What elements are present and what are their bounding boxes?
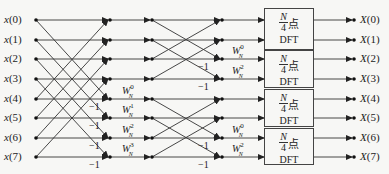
output-node [352, 38, 356, 42]
twiddle-factor: W1N [122, 104, 138, 117]
quarter-dft-block: N4点DFT [264, 50, 314, 88]
output-label: X(0) [360, 14, 380, 25]
stage1-output-node [108, 77, 112, 81]
twiddle-factor: W0N [232, 124, 248, 137]
stage2-input-node [150, 57, 154, 61]
output-node [352, 57, 356, 61]
output-node [352, 136, 356, 140]
dft-label: DFT [265, 34, 313, 45]
twiddle-factor: W0N [232, 45, 248, 58]
input-node [34, 97, 38, 101]
input-label: x(7) [4, 151, 22, 162]
negation-label: −1 [198, 141, 209, 151]
input-label: x(0) [4, 14, 22, 25]
dft-label: DFT [265, 154, 313, 165]
negation-label: −1 [89, 121, 100, 131]
quarter-dft-block: N4点DFT [264, 128, 314, 165]
stage2-output-node [220, 38, 224, 42]
output-label: X(5) [360, 112, 380, 123]
fraction-n-over-4: N4 [279, 93, 288, 114]
input-node [34, 38, 38, 42]
stage1-output-node [108, 38, 112, 42]
input-node [34, 77, 38, 81]
negation-label: −1 [198, 62, 209, 72]
stage2-input-node [150, 38, 154, 42]
input-label: x(1) [4, 34, 22, 45]
stage2-output-node [220, 77, 224, 81]
output-label: X(6) [360, 132, 380, 143]
input-node [34, 116, 38, 120]
output-label: X(3) [360, 73, 380, 84]
stage2-input-node [150, 18, 154, 22]
twiddle-factor: W0N [122, 85, 138, 98]
negation-label: −1 [198, 82, 209, 92]
fraction-n-over-4: N4 [279, 132, 288, 153]
output-node [352, 18, 356, 22]
input-node [34, 18, 38, 22]
fraction-n-over-4: N4 [279, 12, 288, 33]
twiddle-factor: W2N [232, 143, 248, 156]
output-label: X(1) [360, 34, 380, 45]
stage2-output-node [220, 57, 224, 61]
stage2-input-node [150, 77, 154, 81]
negation-label: −1 [89, 160, 100, 170]
quarter-dft-block: N4点DFT [264, 8, 314, 50]
input-node [34, 155, 38, 159]
dft-label: DFT [265, 115, 313, 126]
input-node [34, 57, 38, 61]
stage2-input-node [150, 97, 154, 101]
output-label: X(2) [360, 53, 380, 64]
negation-label: −1 [89, 102, 100, 112]
stage2-input-node [150, 155, 154, 159]
fraction-n-over-4: N4 [279, 54, 288, 75]
output-node [352, 155, 356, 159]
twiddle-factor: W2N [232, 65, 248, 78]
input-label: x(3) [4, 73, 22, 84]
stage2-output-node [220, 97, 224, 101]
stage1-output-node [108, 18, 112, 22]
stage2-input-node [150, 136, 154, 140]
stage1-output-node [108, 57, 112, 61]
negation-label: −1 [89, 141, 100, 151]
stage1-output-node [108, 116, 112, 120]
stage2-input-node [150, 116, 154, 120]
stage2-output-node [220, 155, 224, 159]
dft-label: DFT [265, 76, 313, 87]
flow-graph [0, 0, 389, 174]
input-label: x(6) [4, 132, 22, 143]
output-node [352, 77, 356, 81]
stage2-output-node [220, 116, 224, 120]
stage1-output-node [108, 136, 112, 140]
output-label: X(4) [360, 93, 380, 104]
twiddle-factor: W2N [122, 124, 138, 137]
quarter-dft-block: N4点DFT [264, 89, 314, 127]
stage1-output-node [108, 97, 112, 101]
output-node [352, 97, 356, 101]
input-label: x(2) [4, 53, 22, 64]
output-label: X(7) [360, 151, 380, 162]
stage2-output-node [220, 18, 224, 22]
input-label: x(4) [4, 93, 22, 104]
output-node [352, 116, 356, 120]
stage1-output-node [108, 155, 112, 159]
input-label: x(5) [4, 112, 22, 123]
twiddle-factor: W3N [122, 143, 138, 156]
input-node [34, 136, 38, 140]
stage2-output-node [220, 136, 224, 140]
negation-label: −1 [198, 160, 209, 170]
